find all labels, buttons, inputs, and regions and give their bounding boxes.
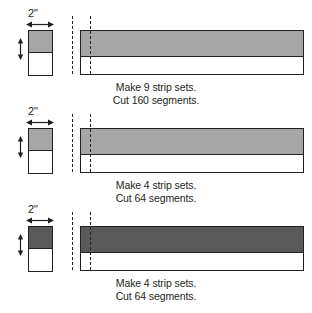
strip-set-block-1: 2" Make 9 strip sets. Cu — [0, 8, 312, 108]
double-headed-vertical-arrow-icon — [17, 38, 24, 60]
cut-line-2a — [72, 114, 73, 172]
double-headed-vertical-arrow-icon — [17, 234, 24, 256]
strip-set-block-3: 2" Make 4 strip sets. Cu — [0, 204, 312, 304]
cut-line-1a — [72, 16, 73, 74]
sample-segment-2 — [28, 128, 53, 174]
strip-white-3 — [80, 252, 304, 271]
strip-pair-2 — [80, 128, 304, 173]
caption-2-line-1: Make 4 strip sets. — [0, 179, 312, 192]
strip-white-2 — [80, 154, 304, 173]
sample-cell-bottom-1 — [29, 53, 52, 75]
strip-set-block-2: 2" Make 4 strip sets. Cu — [0, 106, 312, 206]
cut-line-1b — [90, 16, 91, 74]
strip-pair-1 — [80, 30, 304, 75]
sample-cell-top-1 — [29, 31, 52, 53]
caption-3: Make 4 strip sets. Cut 64 segments. — [0, 277, 312, 303]
sample-segment-3 — [28, 226, 53, 272]
sample-cell-top-3 — [29, 227, 52, 249]
sample-cell-bottom-3 — [29, 249, 52, 271]
strip-gray-1 — [80, 30, 304, 56]
caption-3-line-1: Make 4 strip sets. — [0, 277, 312, 290]
strip-pair-3 — [80, 226, 304, 271]
double-headed-vertical-arrow-icon — [17, 136, 24, 158]
sample-cell-top-2 — [29, 129, 52, 151]
strip-dark-3 — [80, 226, 304, 252]
sample-cell-bottom-2 — [29, 151, 52, 173]
caption-2: Make 4 strip sets. Cut 64 segments. — [0, 179, 312, 205]
caption-1: Make 9 strip sets. Cut 160 segments. — [0, 81, 312, 107]
double-headed-horizontal-arrow-icon — [26, 119, 54, 126]
width-label-2: 2" — [28, 106, 38, 117]
caption-3-line-2: Cut 64 segments. — [0, 290, 312, 303]
sample-segment-1 — [28, 30, 53, 76]
cut-line-2b — [90, 114, 91, 172]
width-label-3: 2" — [28, 204, 38, 215]
width-label-1: 2" — [28, 8, 38, 19]
cut-line-3a — [72, 212, 73, 270]
double-headed-horizontal-arrow-icon — [26, 21, 54, 28]
double-headed-horizontal-arrow-icon — [26, 217, 54, 224]
strip-set-diagram: 2" Make 9 strip sets. Cu — [0, 0, 312, 313]
strip-gray-2 — [80, 128, 304, 154]
strip-white-1 — [80, 56, 304, 75]
cut-line-3b — [90, 212, 91, 270]
caption-1-line-1: Make 9 strip sets. — [0, 81, 312, 94]
